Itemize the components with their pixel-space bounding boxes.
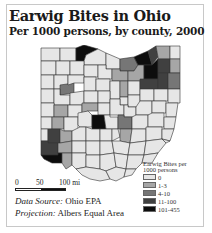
county[interactable]: [41, 117, 52, 129]
county[interactable]: [48, 129, 60, 143]
data-source-value: Ohio EPA: [65, 196, 101, 206]
legend-item: 11-100: [143, 198, 203, 206]
county[interactable]: [86, 141, 100, 155]
legend-title: Earwig Bites per 1000 persons: [143, 161, 203, 173]
county[interactable]: [98, 91, 110, 103]
county[interactable]: [86, 155, 100, 169]
county[interactable]: [136, 101, 152, 115]
legend: Earwig Bites per 1000 persons 0 1-3 4-10…: [143, 161, 203, 213]
county[interactable]: [84, 91, 98, 103]
legend-item: 4-10: [143, 190, 203, 198]
county[interactable]: [78, 111, 92, 127]
county[interactable]: [152, 101, 166, 113]
county[interactable]: [106, 53, 120, 69]
county[interactable]: [54, 105, 68, 117]
county[interactable]: [168, 89, 180, 103]
county[interactable]: [146, 127, 162, 141]
scale-bar: 0 50 100 mi: [15, 178, 95, 191]
county[interactable]: [110, 81, 120, 99]
county[interactable]: [148, 113, 164, 127]
legend-swatch: [143, 174, 156, 180]
legend-label: 4-10: [158, 190, 170, 197]
projection-value: Albers Equal Area: [57, 208, 123, 218]
legend-label: 0: [158, 174, 161, 181]
county[interactable]: [124, 105, 136, 117]
county[interactable]: [41, 75, 54, 89]
county[interactable]: [128, 141, 146, 155]
county[interactable]: [154, 89, 168, 101]
county[interactable]: [60, 48, 76, 61]
county[interactable]: [118, 115, 132, 129]
map-credits: Data Source: Ohio EPA Projection: Albers…: [15, 196, 124, 219]
county[interactable]: [98, 103, 110, 115]
county[interactable]: [120, 97, 128, 105]
county[interactable]: [60, 129, 72, 143]
county[interactable]: [86, 127, 100, 141]
legend-item: 0: [143, 174, 203, 182]
scale-label-zero: 0: [15, 178, 19, 187]
county[interactable]: [170, 46, 180, 59]
county[interactable]: [41, 48, 60, 61]
county[interactable]: [62, 153, 72, 169]
county[interactable]: [100, 141, 114, 155]
county[interactable]: [68, 75, 84, 85]
county[interactable]: [114, 153, 128, 169]
county[interactable]: [41, 61, 56, 75]
county[interactable]: [41, 89, 54, 103]
county[interactable]: [92, 115, 106, 129]
county[interactable]: [158, 73, 168, 89]
county[interactable]: [58, 141, 72, 153]
county[interactable]: [126, 155, 144, 169]
scale-label-mid: 50: [36, 178, 44, 187]
county[interactable]: [52, 117, 64, 129]
data-source-label: Data Source:: [15, 196, 63, 206]
legend-label: 101-455: [158, 206, 180, 213]
legend-swatch: [143, 190, 156, 196]
map-title: Earwig Bites in Ohio: [9, 7, 171, 24]
county[interactable]: [120, 81, 128, 97]
county[interactable]: [112, 129, 120, 141]
county[interactable]: [140, 79, 158, 89]
legend-swatch: [143, 206, 156, 212]
county[interactable]: [100, 129, 112, 141]
legend-label: 1-3: [158, 182, 167, 189]
county[interactable]: [84, 65, 98, 77]
county[interactable]: [140, 89, 154, 101]
county[interactable]: [132, 115, 148, 129]
county[interactable]: [170, 59, 180, 73]
county[interactable]: [112, 69, 128, 81]
county[interactable]: [124, 169, 136, 177]
county[interactable]: [72, 141, 86, 153]
legend-title-line2: 1000 persons: [143, 167, 203, 173]
county[interactable]: [41, 129, 48, 141]
county[interactable]: [56, 61, 70, 75]
legend-label: 11-100: [158, 198, 176, 205]
scale-segment-black: [41, 189, 66, 190]
legend-item: 1-3: [143, 182, 203, 190]
county[interactable]: [130, 129, 146, 143]
county[interactable]: [158, 59, 170, 73]
county[interactable]: [168, 73, 180, 89]
county[interactable]: [128, 81, 140, 95]
county[interactable]: [41, 141, 58, 155]
projection-label: Projection:: [15, 208, 56, 218]
map-subtitle: Per 1000 persons, by county, 2000: [9, 25, 204, 37]
data-source: Data Source: Ohio EPA: [15, 196, 124, 208]
county[interactable]: [41, 103, 54, 117]
county[interactable]: [72, 153, 86, 169]
county[interactable]: [96, 79, 110, 91]
scale-label-max: 100 mi: [59, 178, 80, 187]
county[interactable]: [70, 61, 84, 75]
scale-bar-graphic: [15, 188, 66, 191]
county[interactable]: [166, 103, 178, 117]
county[interactable]: [84, 77, 96, 91]
scale-segment-white: [16, 189, 41, 190]
projection: Projection: Albers Equal Area: [15, 208, 124, 220]
scale-labels: 0 50 100 mi: [15, 178, 95, 187]
county[interactable]: [144, 139, 166, 155]
county[interactable]: [156, 46, 170, 59]
county[interactable]: [104, 115, 118, 129]
county[interactable]: [164, 117, 176, 129]
legend-swatch: [143, 182, 156, 188]
legend-item: 101-455: [143, 206, 203, 214]
